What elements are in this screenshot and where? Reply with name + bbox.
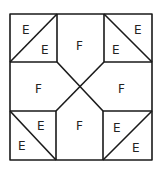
label-tl-outer: E [22,23,30,37]
quilt-block-diagram: E E F E E F F E E F E E [0,0,159,169]
label-bl-inner: E [37,119,45,133]
label-right: F [118,82,125,96]
bl-diagonal [10,111,56,160]
label-tr-inner: E [112,43,120,57]
tl-diagonal [10,14,57,62]
label-bottom: F [76,119,83,133]
label-br-inner: E [113,121,121,135]
label-top: F [76,39,83,53]
br-diagonal [103,111,152,160]
label-tr-outer: E [134,23,142,37]
label-br-outer: E [132,141,140,155]
label-left: F [35,82,42,96]
label-bl-outer: E [18,139,26,153]
label-tl-inner: E [41,43,49,57]
